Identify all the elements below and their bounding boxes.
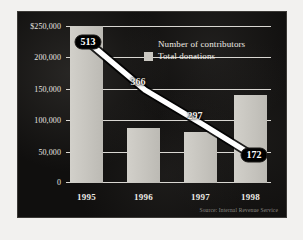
chart-panel: 513 366 297 172 $250,000 200,000 150,000… <box>18 12 286 217</box>
x-axis-label-1995: 1995 <box>77 192 96 202</box>
point-label-1996: 366 <box>131 77 146 87</box>
legend-label-contributors: Number of contributors <box>158 38 245 50</box>
y-axis-label-200000: 200,000 <box>34 53 61 62</box>
y-axis-label-0: 0 <box>57 178 61 187</box>
legend-item-donations: Total donations <box>144 50 245 62</box>
y-axis-label-100000: 100,000 <box>34 116 61 125</box>
chart-legend: Number of contributors Total donations <box>144 38 245 62</box>
y-axis-label-150000: 150,000 <box>34 84 61 93</box>
line-marker-icon <box>144 40 153 49</box>
chart-figure: 513 366 297 172 $250,000 200,000 150,000… <box>0 0 303 240</box>
x-axis-label-1996: 1996 <box>134 192 153 202</box>
point-label-1995: 513 <box>75 35 102 50</box>
legend-label-donations: Total donations <box>158 50 215 62</box>
x-axis-label-1997: 1997 <box>191 192 210 202</box>
point-label-1997: 297 <box>188 111 203 121</box>
x-axis-label-1998: 1998 <box>241 192 260 202</box>
point-label-1998: 172 <box>241 148 268 163</box>
source-note: Source: Internal Revenue Service <box>199 207 278 213</box>
gray-swatch-icon <box>144 52 153 61</box>
y-axis-label-50000: 50,000 <box>38 147 61 156</box>
legend-item-contributors: Number of contributors <box>144 38 245 50</box>
y-axis-label-250000: $250,000 <box>30 22 61 31</box>
